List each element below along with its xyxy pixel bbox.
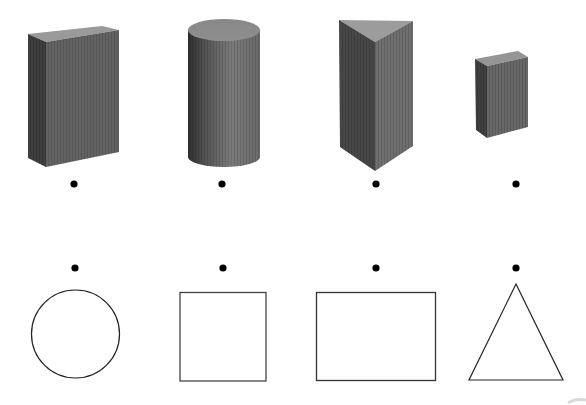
square-match-dot[interactable] <box>219 264 226 271</box>
triangle-match-dot[interactable] <box>512 264 519 271</box>
square-shape <box>180 293 266 382</box>
corner-smudge <box>568 399 586 403</box>
circle-match-dot[interactable] <box>71 264 78 271</box>
rectangle-match-dot[interactable] <box>372 264 379 271</box>
triangular-prism-solid <box>339 20 413 171</box>
triangle-shape <box>469 284 563 380</box>
rectangle-shape <box>317 293 436 381</box>
matching-diagram <box>0 0 586 405</box>
circle-shape <box>32 290 120 378</box>
cuboid-match-dot[interactable] <box>70 180 77 187</box>
cylinder-top-face <box>188 19 260 41</box>
cuboid-solid <box>28 26 119 167</box>
prism-match-dot[interactable] <box>372 180 379 187</box>
cube-solid <box>475 51 528 138</box>
cube-match-dot[interactable] <box>512 180 519 187</box>
cylinder-match-dot[interactable] <box>218 180 225 187</box>
cylinder-solid <box>188 19 260 167</box>
